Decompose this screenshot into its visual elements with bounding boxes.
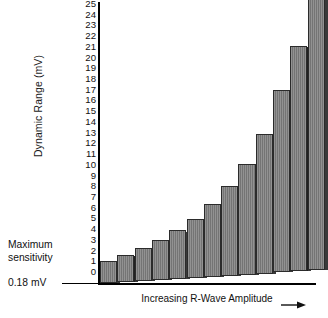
- y-axis-tick-label: 14: [74, 117, 96, 127]
- bar-side-face: [134, 256, 138, 282]
- y-axis-tick-label: 6: [74, 203, 96, 213]
- bar: [152, 240, 169, 280]
- y-axis-line: [98, 2, 100, 284]
- bar: [169, 230, 186, 279]
- bar: [290, 46, 307, 271]
- bar: [273, 90, 290, 273]
- y-axis-tick-labels: 2524232221201918171615141312111098765432…: [74, 0, 96, 276]
- y-axis-tick-label: 4: [74, 224, 96, 234]
- y-axis-tick-label: 12: [74, 138, 96, 148]
- bar: [238, 164, 255, 275]
- bar-side-face: [151, 250, 155, 281]
- bar-side-face: [272, 135, 276, 273]
- y-axis-tick-label: 19: [74, 63, 96, 73]
- y-axis-tick-label: 11: [74, 149, 96, 159]
- bar-side-face: [116, 263, 120, 283]
- y-axis-title: Dynamic Range (mV): [32, 11, 44, 201]
- bar: [308, 0, 325, 270]
- max-sensitivity-label-line2: sensitivity: [8, 251, 53, 264]
- y-axis-tick-label: 21: [74, 42, 96, 52]
- y-axis-tick-label: 18: [74, 74, 96, 84]
- x-axis-line: [98, 283, 316, 285]
- y-axis-tick-label: 25: [74, 0, 96, 9]
- y-axis-tick-label: 0: [74, 267, 96, 277]
- max-sensitivity-annotation: Maximum sensitivity: [8, 238, 53, 264]
- bar-side-face: [255, 165, 259, 274]
- baseline-value-label: 0.18 mV: [8, 277, 46, 288]
- bar-side-face: [185, 232, 189, 279]
- y-axis-tick-label: 24: [74, 10, 96, 20]
- max-sensitivity-label-line1: Maximum: [8, 238, 53, 251]
- bar: [204, 204, 221, 277]
- bar-side-face: [237, 188, 241, 276]
- baseline-leader-line: [62, 283, 99, 284]
- bar-side-face: [307, 47, 311, 271]
- x-axis-arrow-icon: [281, 301, 307, 309]
- y-axis-tick-label: 16: [74, 95, 96, 105]
- y-axis-tick-label: 15: [74, 106, 96, 116]
- bar-side-face: [289, 91, 293, 272]
- y-axis-tick-label: 17: [74, 85, 96, 95]
- bar: [135, 248, 152, 280]
- bar: [187, 219, 204, 278]
- y-axis-tick-label: 20: [74, 53, 96, 63]
- y-axis-tick-label: 1: [74, 256, 96, 266]
- bar: [117, 255, 134, 282]
- bar: [256, 134, 273, 274]
- y-axis-tick-label: 10: [74, 160, 96, 170]
- y-axis-tick-label: 2: [74, 246, 96, 256]
- bar-side-face: [220, 205, 224, 277]
- bar: [100, 261, 117, 283]
- bar-side-face: [168, 241, 172, 280]
- y-axis-tick-label: 5: [74, 213, 96, 223]
- y-axis-tick-label: 22: [74, 31, 96, 41]
- bar-side-face: [324, 0, 328, 270]
- bar-side-face: [203, 220, 207, 278]
- y-axis-tick-label: 13: [74, 128, 96, 138]
- y-axis-tick-label: 3: [74, 235, 96, 245]
- y-axis-tick-label: 7: [74, 192, 96, 202]
- y-axis-tick-label: 23: [74, 20, 96, 30]
- bar: [221, 186, 238, 275]
- y-axis-tick-label: 8: [74, 181, 96, 191]
- y-axis-tick-label: 9: [74, 171, 96, 181]
